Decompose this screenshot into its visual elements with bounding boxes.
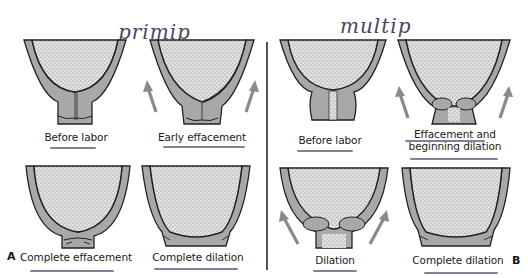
diagram-primip-complete-dilation [140,166,252,248]
stage-label-primip-early-effacement: Early effacement [152,131,252,143]
panel-marker-a: A [7,250,16,263]
arrow-up-left-icon [395,86,408,118]
underline [297,150,353,152]
underline [50,147,96,149]
stage-label-multip-complete-dilation: Complete dilation [412,254,504,266]
figure-cervical-effacement-dilation: primip multip Before labor Early effacem… [0,0,528,278]
underline [405,140,485,142]
stage-label-primip-complete-effacement: Complete effacement [20,251,120,263]
arrow-up-right-icon [246,80,259,112]
stage-label-multip-before-labor: Before labor [290,134,370,146]
diagram-primip-early-effacement [146,40,258,128]
stage-label-multip-dilation: Dilation [300,254,370,266]
stage-label-primip-before-labor: Before labor [38,131,114,143]
underline [154,268,238,270]
arrow-up-left-icon [143,80,156,112]
diagram-multip-before-labor [278,40,388,124]
panel-marker-b: B [512,254,520,267]
underline [163,146,245,148]
underline [30,270,114,272]
stage-label-primip-complete-dilation: Complete dilation [152,251,244,263]
diagram-multip-dilation [276,168,392,248]
diagram-multip-complete-dilation [400,168,512,248]
diagram-multip-effacement-beginning-dilation [396,40,512,126]
underline [313,270,357,272]
underline [410,158,498,160]
diagram-primip-complete-effacement [24,166,132,248]
panel-divider [266,42,268,270]
diagram-primip-before-labor [20,40,130,128]
arrow-up-right-icon [500,86,513,118]
handwritten-title-multip: multip [340,14,411,38]
underline [424,272,498,274]
